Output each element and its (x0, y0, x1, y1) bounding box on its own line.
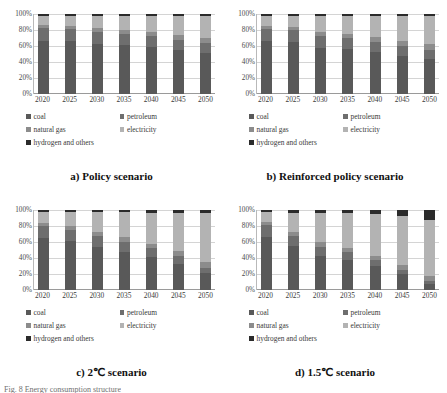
legend-item[interactable]: coal (26, 112, 120, 121)
legend-item[interactable]: coal (249, 112, 343, 121)
bar-segment[interactable] (288, 16, 299, 27)
bar-segment[interactable] (146, 213, 157, 243)
bar-segment[interactable] (173, 264, 184, 290)
bar-segment[interactable] (200, 43, 211, 53)
bar-segment[interactable] (370, 266, 381, 290)
bar-segment[interactable] (146, 36, 157, 47)
bar-segment[interactable] (92, 16, 103, 28)
bar-segment[interactable] (38, 238, 49, 290)
stacked-bar[interactable] (173, 14, 184, 94)
bar-segment[interactable] (261, 212, 272, 222)
bar-segment[interactable] (146, 257, 157, 290)
bar-segment[interactable] (424, 50, 435, 59)
stacked-bar[interactable] (288, 210, 299, 290)
stacked-bar[interactable] (424, 14, 435, 94)
bar-segment[interactable] (315, 36, 326, 48)
bar-segment[interactable] (261, 237, 272, 290)
bar-segment[interactable] (38, 16, 49, 26)
bar-segment[interactable] (424, 284, 435, 290)
stacked-bar[interactable] (370, 14, 381, 94)
bar-segment[interactable] (288, 213, 299, 231)
stacked-bar[interactable] (38, 14, 49, 94)
bar-segment[interactable] (288, 236, 299, 246)
bar-segment[interactable] (315, 16, 326, 32)
bar-segment[interactable] (65, 212, 76, 226)
bar-segment[interactable] (424, 220, 435, 277)
bar-segment[interactable] (370, 52, 381, 94)
bar-segment[interactable] (315, 256, 326, 290)
bar-segment[interactable] (38, 28, 49, 41)
stacked-bar[interactable] (173, 210, 184, 290)
bar-segment[interactable] (261, 29, 272, 41)
stacked-bar[interactable] (65, 210, 76, 290)
bar-segment[interactable] (92, 44, 103, 94)
bar-segment[interactable] (119, 34, 130, 45)
stacked-bar[interactable] (65, 14, 76, 94)
legend-item[interactable]: coal (249, 308, 343, 317)
bar-segment[interactable] (200, 53, 211, 94)
bar-segment[interactable] (261, 41, 272, 94)
bar-segment[interactable] (38, 212, 49, 222)
bar-segment[interactable] (119, 212, 130, 237)
stacked-bar[interactable] (315, 14, 326, 94)
stacked-bar[interactable] (397, 210, 408, 290)
legend-item[interactable]: petroleum (120, 308, 214, 317)
bar-segment[interactable] (342, 252, 353, 259)
legend-item[interactable]: hydrogen and others (26, 138, 213, 147)
bar-segment[interactable] (288, 30, 299, 42)
stacked-bar[interactable] (119, 14, 130, 94)
bar-segment[interactable] (92, 247, 103, 290)
bar-segment[interactable] (370, 214, 381, 256)
bar-segment[interactable] (173, 50, 184, 94)
bar-segment[interactable] (119, 45, 130, 94)
bar-segment[interactable] (92, 32, 103, 44)
bar-segment[interactable] (261, 225, 272, 237)
stacked-bar[interactable] (342, 210, 353, 290)
bar-segment[interactable] (173, 16, 184, 35)
stacked-bar[interactable] (38, 210, 49, 290)
legend-item[interactable]: natural gas (26, 125, 120, 134)
bar-segment[interactable] (146, 16, 157, 32)
bar-segment[interactable] (397, 46, 408, 56)
bar-segment[interactable] (424, 16, 435, 44)
bar-segment[interactable] (424, 210, 435, 220)
stacked-bar[interactable] (261, 14, 272, 94)
bar-segment[interactable] (342, 16, 353, 34)
bar-segment[interactable] (38, 226, 49, 238)
legend-item[interactable]: coal (26, 308, 120, 317)
bar-segment[interactable] (397, 216, 408, 266)
stacked-bar[interactable] (146, 14, 157, 94)
legend-item[interactable]: hydrogen and others (249, 334, 437, 343)
stacked-bar[interactable] (315, 210, 326, 290)
bar-segment[interactable] (261, 16, 272, 26)
bar-segment[interactable] (342, 260, 353, 290)
bar-segment[interactable] (65, 41, 76, 94)
legend-item[interactable]: electricity (120, 125, 214, 134)
bar-segment[interactable] (370, 42, 381, 52)
legend-item[interactable]: electricity (120, 321, 214, 330)
bar-segment[interactable] (119, 242, 130, 252)
legend-item[interactable]: electricity (343, 125, 437, 134)
bar-segment[interactable] (200, 213, 211, 262)
bar-segment[interactable] (200, 273, 211, 290)
bar-segment[interactable] (397, 16, 408, 41)
bar-segment[interactable] (424, 59, 435, 94)
stacked-bar[interactable] (200, 14, 211, 94)
bar-segment[interactable] (200, 16, 211, 38)
bar-segment[interactable] (173, 256, 184, 263)
stacked-bar[interactable] (288, 14, 299, 94)
stacked-bar[interactable] (92, 210, 103, 290)
bar-segment[interactable] (65, 16, 76, 26)
bar-segment[interactable] (288, 42, 299, 94)
bar-segment[interactable] (315, 48, 326, 94)
bar-segment[interactable] (65, 29, 76, 41)
legend-item[interactable]: natural gas (249, 125, 343, 134)
stacked-bar[interactable] (200, 210, 211, 290)
legend-item[interactable]: petroleum (120, 112, 214, 121)
bar-segment[interactable] (119, 16, 130, 30)
stacked-bar[interactable] (397, 14, 408, 94)
stacked-bar[interactable] (261, 210, 272, 290)
stacked-bar[interactable] (92, 14, 103, 94)
stacked-bar[interactable] (119, 210, 130, 290)
bar-segment[interactable] (342, 38, 353, 49)
